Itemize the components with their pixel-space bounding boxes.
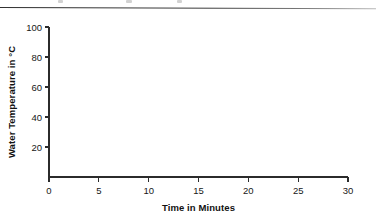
x-tick-label: 5	[96, 185, 101, 196]
plot-area	[49, 27, 348, 177]
y-axis-title: Water Temperature in °C	[6, 46, 17, 158]
y-tick-label: 60	[31, 82, 42, 93]
y-tick-label: 20	[31, 142, 42, 153]
x-tick-label: 30	[343, 185, 354, 196]
y-tick-label: 100	[26, 22, 42, 33]
y-axis-ticks	[45, 27, 49, 147]
x-tick-label: 10	[143, 185, 154, 196]
y-axis-tick-labels: 100 80 60 40 20	[26, 22, 42, 153]
x-tick-label: 20	[243, 185, 254, 196]
x-tick-label: 0	[46, 185, 51, 196]
water-temperature-chart: 100 80 60 40 20 0 5 10 15 20 25 30	[0, 10, 376, 221]
x-axis-ticks	[49, 177, 348, 182]
y-tick-label: 40	[31, 112, 42, 123]
horizontal-rule	[0, 7, 376, 9]
y-tick-label: 80	[31, 52, 42, 63]
x-tick-label: 15	[193, 185, 204, 196]
x-axis-title: Time in Minutes	[162, 202, 235, 213]
x-tick-label: 25	[293, 185, 304, 196]
x-axis-tick-labels: 0 5 10 15 20 25 30	[46, 185, 353, 196]
cropped-text-row	[0, 0, 376, 5]
